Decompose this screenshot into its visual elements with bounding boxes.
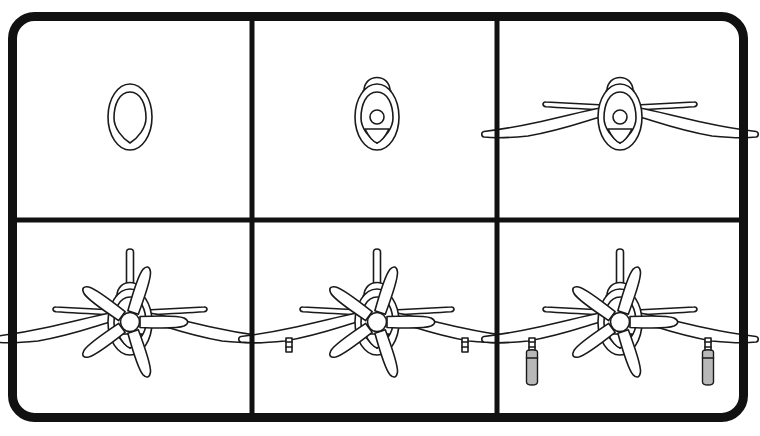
gear-wheel-left bbox=[527, 350, 538, 385]
vertical-tail-fin bbox=[374, 249, 381, 284]
vertical-tail-fin bbox=[127, 249, 134, 284]
vertical-tail-fin bbox=[617, 249, 624, 284]
spinner-hub bbox=[613, 110, 627, 124]
drawing-tutorial-illustration bbox=[0, 0, 760, 436]
spinner-hub bbox=[370, 110, 384, 124]
tutorial-page bbox=[0, 0, 760, 436]
gear-wheel-right bbox=[703, 350, 714, 385]
gear-strut-left bbox=[286, 338, 292, 352]
gear-strut-right bbox=[462, 338, 468, 352]
panel-step-1 bbox=[108, 84, 152, 150]
